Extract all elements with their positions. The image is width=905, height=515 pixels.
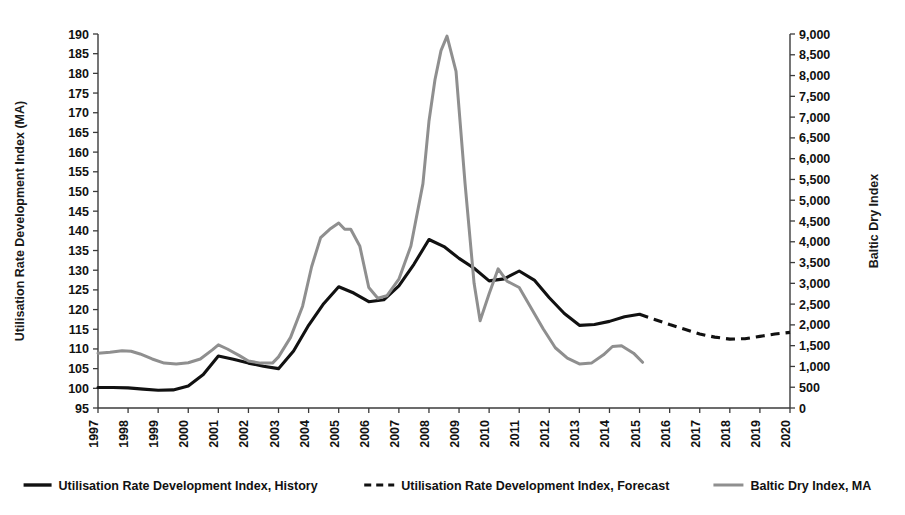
y2-tick-label: 6,500 <box>799 131 830 145</box>
y-axis-left-ticks: 9510010511011512012513013514014515015516… <box>68 28 98 416</box>
y2-tick-label: 4,000 <box>799 235 830 249</box>
y-axis-left-title: Utilisation Rate Development Index (MA) <box>13 101 27 341</box>
x-tick-label: 2020 <box>779 420 793 448</box>
x-tick-label: 2003 <box>268 420 282 448</box>
y-tick-label: 185 <box>68 47 89 61</box>
x-axis-ticks: 1997199819992000200120022003200420052006… <box>87 408 793 448</box>
x-tick-label: 2014 <box>598 420 612 448</box>
y2-tick-label: 3,500 <box>799 256 830 270</box>
y-tick-label: 145 <box>68 205 89 219</box>
y-axis-right-ticks: 05001,0001,5002,0002,5003,0003,5004,0004… <box>790 28 830 416</box>
x-tick-label: 2005 <box>328 420 342 448</box>
y-tick-label: 120 <box>68 303 89 317</box>
line-chart: 9510010511011512012513013514014515015516… <box>0 0 905 515</box>
x-tick-label: 1997 <box>87 420 101 448</box>
x-tick-label: 2018 <box>719 420 733 448</box>
y-tick-label: 175 <box>68 87 89 101</box>
x-tick-label: 1998 <box>117 420 131 448</box>
y2-tick-label: 9,000 <box>799 28 830 42</box>
y-tick-label: 110 <box>69 342 89 356</box>
y-tick-label: 180 <box>68 67 89 81</box>
y-tick-label: 115 <box>69 323 89 337</box>
x-tick-label: 2009 <box>448 420 462 448</box>
plot-background <box>98 34 790 408</box>
x-tick-label: 2006 <box>358 420 372 448</box>
y-tick-label: 155 <box>68 165 89 179</box>
y-tick-label: 125 <box>68 283 89 297</box>
y2-tick-label: 2,000 <box>799 318 830 332</box>
legend-label: Utilisation Rate Development Index, Fore… <box>401 479 670 493</box>
y2-tick-label: 7,000 <box>799 111 830 125</box>
y2-tick-label: 5,000 <box>799 194 830 208</box>
x-tick-label: 2017 <box>689 420 703 448</box>
y-tick-label: 160 <box>68 146 89 160</box>
y-tick-label: 190 <box>68 28 89 42</box>
y-tick-label: 150 <box>68 185 89 199</box>
y2-tick-label: 1,500 <box>799 339 830 353</box>
legend-label: Baltic Dry Index, MA <box>750 479 871 493</box>
chart-container: 9510010511011512012513013514014515015516… <box>0 0 905 515</box>
y2-tick-label: 5,500 <box>799 173 830 187</box>
y2-tick-label: 6,000 <box>799 152 830 166</box>
y2-tick-label: 500 <box>799 381 820 395</box>
chart-legend: Utilisation Rate Development Index, Hist… <box>24 479 872 493</box>
x-tick-label: 2002 <box>237 420 251 448</box>
y2-tick-label: 2,500 <box>799 298 830 312</box>
y-tick-label: 130 <box>68 264 89 278</box>
y2-tick-label: 8,500 <box>799 48 830 62</box>
x-tick-label: 2013 <box>568 420 582 448</box>
y-tick-label: 170 <box>68 106 89 120</box>
x-tick-label: 2007 <box>388 420 402 448</box>
x-tick-label: 2015 <box>629 420 643 448</box>
y2-tick-label: 7,500 <box>799 90 830 104</box>
x-tick-label: 2010 <box>478 420 492 448</box>
y2-tick-label: 4,500 <box>799 215 830 229</box>
x-tick-label: 2011 <box>508 420 522 447</box>
y-axis-right-title: Baltic Dry Index <box>867 174 881 269</box>
y2-tick-label: 8,000 <box>799 69 830 83</box>
x-tick-label: 2008 <box>418 420 432 448</box>
x-tick-label: 2016 <box>659 420 673 448</box>
y-tick-label: 135 <box>68 244 89 258</box>
x-tick-label: 2019 <box>749 420 763 448</box>
x-tick-label: 1999 <box>147 420 161 448</box>
y-tick-label: 105 <box>68 362 89 376</box>
x-tick-label: 2000 <box>177 420 191 448</box>
x-tick-label: 2012 <box>538 420 552 448</box>
x-tick-label: 2001 <box>207 420 221 448</box>
y-tick-label: 95 <box>75 402 89 416</box>
legend-label: Utilisation Rate Development Index, Hist… <box>59 479 318 493</box>
y2-tick-label: 1,000 <box>799 360 830 374</box>
y2-tick-label: 0 <box>799 402 806 416</box>
y-tick-label: 140 <box>68 224 89 238</box>
x-tick-label: 2004 <box>298 420 312 448</box>
y2-tick-label: 3,000 <box>799 277 830 291</box>
y-tick-label: 100 <box>68 382 89 396</box>
y-tick-label: 165 <box>68 126 89 140</box>
